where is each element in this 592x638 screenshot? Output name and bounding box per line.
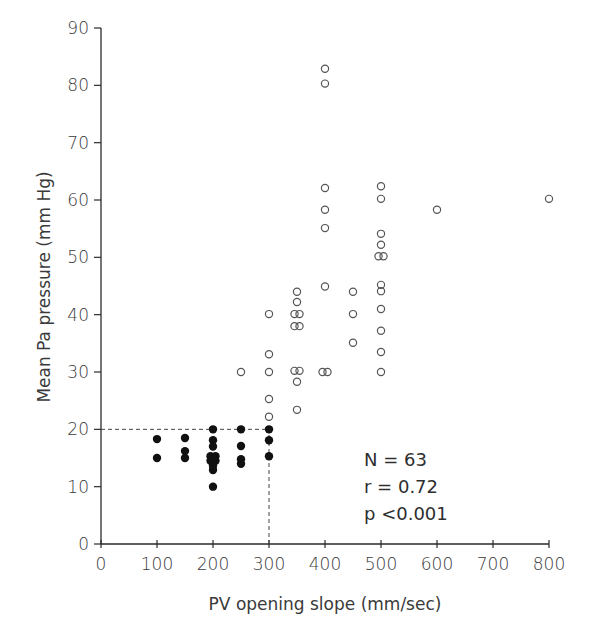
- x-tick-label: 500: [365, 554, 397, 574]
- y-tick-label: 60: [67, 190, 89, 210]
- stat-p: p <0.001: [364, 503, 448, 524]
- stat-n: N = 63: [364, 449, 427, 470]
- open-data-point: [321, 80, 328, 87]
- open-data-point: [293, 406, 300, 413]
- y-axis-title: Mean Pa pressure (mm Hg): [34, 171, 54, 402]
- filled-data-point: [237, 442, 245, 450]
- open-data-point: [265, 310, 272, 317]
- y-tick-label: 80: [67, 75, 89, 95]
- open-data-point: [380, 253, 387, 260]
- open-data-point: [377, 305, 384, 312]
- y-tick-label: 70: [67, 133, 89, 153]
- open-data-point: [296, 310, 303, 317]
- data-points: [153, 65, 553, 491]
- stat-r: r = 0.72: [364, 476, 438, 497]
- x-tick-label: 400: [309, 554, 341, 574]
- open-data-point: [265, 395, 272, 402]
- open-data-point: [321, 65, 328, 72]
- y-tick-label: 10: [67, 477, 89, 497]
- y-tick-label: 30: [67, 362, 89, 382]
- x-tick-label: 300: [253, 554, 285, 574]
- filled-data-point: [209, 466, 217, 474]
- open-data-point: [321, 206, 328, 213]
- open-data-point: [237, 368, 244, 375]
- open-data-point: [321, 283, 328, 290]
- y-tick-label: 90: [67, 18, 89, 38]
- open-data-point: [265, 351, 272, 358]
- filled-data-point: [209, 442, 217, 450]
- filled-data-point: [209, 425, 217, 433]
- axes: 0100200300400500600700800010203040506070…: [67, 18, 565, 574]
- x-tick-label: 700: [477, 554, 509, 574]
- open-data-point: [545, 195, 552, 202]
- open-data-point: [377, 230, 384, 237]
- filled-data-point: [153, 454, 161, 462]
- scatter-chart: 0100200300400500600700800010203040506070…: [0, 0, 592, 638]
- x-tick-label: 800: [533, 554, 565, 574]
- filled-data-point: [265, 425, 273, 433]
- open-data-point: [377, 241, 384, 248]
- open-data-point: [265, 413, 272, 420]
- x-tick-label: 0: [96, 554, 107, 574]
- open-data-point: [433, 206, 440, 213]
- open-data-point: [321, 184, 328, 191]
- open-data-point: [377, 195, 384, 202]
- y-tick-label: 40: [67, 305, 89, 325]
- open-data-point: [349, 310, 356, 317]
- filled-data-point: [237, 425, 245, 433]
- y-tick-label: 20: [67, 419, 89, 439]
- open-data-point: [293, 288, 300, 295]
- filled-data-point: [265, 436, 273, 444]
- x-tick-label: 200: [197, 554, 229, 574]
- y-tick-label: 50: [67, 247, 89, 267]
- filled-data-point: [209, 482, 217, 490]
- open-data-point: [293, 298, 300, 305]
- open-data-point: [377, 368, 384, 375]
- x-axis-title: PV opening slope (mm/sec): [209, 594, 442, 614]
- open-data-point: [377, 348, 384, 355]
- y-tick-label: 0: [78, 534, 89, 554]
- filled-data-point: [237, 460, 245, 468]
- open-data-point: [296, 323, 303, 330]
- open-data-point: [293, 378, 300, 385]
- x-tick-label: 100: [141, 554, 173, 574]
- open-data-point: [349, 288, 356, 295]
- open-data-point: [377, 183, 384, 190]
- open-data-point: [296, 367, 303, 374]
- open-data-point: [265, 368, 272, 375]
- filled-data-point: [265, 452, 273, 460]
- open-data-point: [349, 339, 356, 346]
- filled-data-point: [181, 454, 189, 462]
- open-data-point: [377, 327, 384, 334]
- x-tick-label: 600: [421, 554, 453, 574]
- open-data-point: [321, 224, 328, 231]
- open-data-point: [324, 368, 331, 375]
- filled-data-point: [181, 434, 189, 442]
- filled-data-point: [153, 435, 161, 443]
